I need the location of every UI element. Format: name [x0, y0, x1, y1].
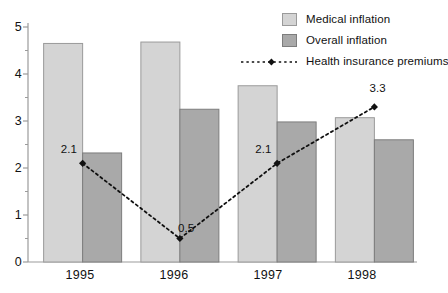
- data-label-1998: 3.3: [369, 82, 386, 94]
- bar-medical-1996: [141, 42, 180, 262]
- x-tick-label-1996: 1996: [144, 268, 204, 282]
- data-label-1997: 2.1: [255, 143, 272, 155]
- legend-item-health-insurance-premiums: Health insurance premiums: [282, 52, 427, 70]
- data-point-1998: [371, 103, 378, 110]
- bar-overall-1996: [180, 109, 219, 262]
- bar-medical-1997: [238, 86, 277, 262]
- legend-swatch-overall-icon: [282, 34, 297, 47]
- legend-dotted-line-icon: [282, 55, 297, 68]
- data-label-1995: 2.1: [61, 143, 78, 155]
- y-tick-label-5: 5: [4, 20, 22, 34]
- bar-overall-1995: [83, 153, 122, 262]
- y-tick-label-4: 4: [4, 67, 22, 81]
- legend-swatch-medical-icon: [282, 13, 297, 26]
- legend-item-overall-inflation: Overall inflation: [282, 31, 427, 49]
- x-tick-label-1998: 1998: [332, 268, 392, 282]
- y-tick-label-0: 0: [4, 255, 22, 269]
- legend-label-overall-inflation: Overall inflation: [306, 34, 387, 46]
- line-health-insurance-premiums: [83, 107, 375, 239]
- chart-legend: Medical inflation Overall inflation Heal…: [282, 10, 427, 73]
- bar-medical-1998: [335, 118, 374, 262]
- y-tick-label-1: 1: [4, 208, 22, 222]
- legend-label-medical-inflation: Medical inflation: [306, 13, 390, 25]
- x-tick-label-1995: 1995: [50, 268, 110, 282]
- y-tick-label-3: 3: [4, 114, 22, 128]
- data-label-1996: 0.5: [178, 222, 195, 234]
- x-tick-label-1997: 1997: [238, 268, 298, 282]
- legend-item-medical-inflation: Medical inflation: [282, 10, 427, 28]
- legend-label-health-insurance-premiums: Health insurance premiums: [306, 55, 448, 67]
- bar-overall-1998: [374, 140, 413, 262]
- y-tick-label-2: 2: [4, 161, 22, 175]
- bar-overall-1997: [277, 122, 316, 262]
